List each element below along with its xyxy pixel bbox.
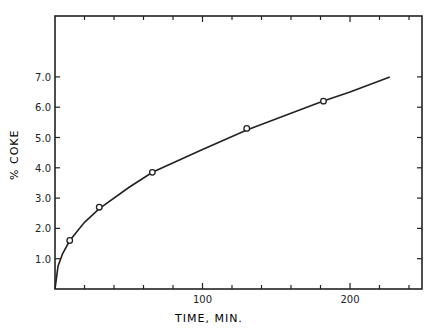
data-point xyxy=(321,98,327,104)
plot-frame xyxy=(55,16,422,289)
y-tick-label: 3.0 xyxy=(35,193,51,204)
data-point xyxy=(67,238,73,244)
y-axis-label: % COKE xyxy=(8,130,21,180)
x-axis-label: TIME, MIN. xyxy=(175,312,243,325)
y-tick-label: 5.0 xyxy=(35,133,51,144)
chart-svg: 1002001.02.03.04.05.06.07.0 xyxy=(0,0,436,332)
fit-curve xyxy=(55,77,390,289)
y-tick-label: 7.0 xyxy=(35,72,51,83)
y-tick-label: 2.0 xyxy=(35,223,51,234)
data-point xyxy=(244,126,250,132)
y-tick-label: 6.0 xyxy=(35,102,51,113)
data-point xyxy=(150,170,156,176)
x-tick-label: 100 xyxy=(193,294,212,305)
y-tick-label: 4.0 xyxy=(35,163,51,174)
x-tick-label: 200 xyxy=(340,294,359,305)
chart: 1002001.02.03.04.05.06.07.0 TIME, MIN. %… xyxy=(0,0,436,332)
data-point xyxy=(96,204,102,210)
y-tick-label: 1.0 xyxy=(35,254,51,265)
